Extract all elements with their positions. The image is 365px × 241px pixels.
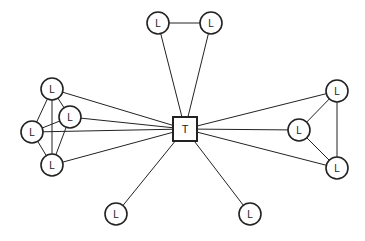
leaf-node-n1: L bbox=[147, 12, 169, 34]
node-label: L bbox=[334, 86, 340, 97]
node-label: L bbox=[113, 209, 119, 220]
leaf-node-n10: L bbox=[105, 203, 127, 225]
node-label: L bbox=[247, 209, 253, 220]
edge-n9-T bbox=[185, 129, 337, 168]
edge-n8-T bbox=[185, 129, 299, 130]
leaf-node-n11: L bbox=[239, 203, 261, 225]
edge-n5-T bbox=[32, 129, 185, 132]
leaf-node-n3: L bbox=[41, 78, 63, 100]
node-label: L bbox=[155, 18, 161, 29]
leaf-node-n6: L bbox=[41, 154, 63, 176]
leaf-node-n2: L bbox=[200, 12, 222, 34]
node-label: L bbox=[49, 84, 55, 95]
node-label: L bbox=[296, 125, 302, 136]
node-label: L bbox=[49, 160, 55, 171]
node-label: L bbox=[334, 163, 340, 174]
diagram-canvas: TLLLLLLLLLLL bbox=[0, 0, 365, 241]
leaf-node-n4: L bbox=[59, 106, 81, 128]
node-label: L bbox=[29, 127, 35, 138]
edge-n6-T bbox=[52, 129, 185, 165]
hub-node-t: T bbox=[173, 117, 197, 141]
leaf-node-n5: L bbox=[21, 121, 43, 143]
hub-label: T bbox=[182, 123, 189, 135]
leaf-node-n8: L bbox=[288, 119, 310, 141]
network-diagram: TLLLLLLLLLLL bbox=[0, 0, 365, 241]
leaf-node-n9: L bbox=[326, 157, 348, 179]
edge-n2-T bbox=[185, 23, 211, 129]
leaf-node-n7: L bbox=[326, 80, 348, 102]
node-label: L bbox=[208, 18, 214, 29]
edge-n4-T bbox=[70, 117, 185, 129]
edge-n7-T bbox=[185, 91, 337, 129]
node-label: L bbox=[67, 112, 73, 123]
nodes-layer: TLLLLLLLLLLL bbox=[21, 12, 348, 225]
edge-n1-T bbox=[158, 23, 185, 129]
